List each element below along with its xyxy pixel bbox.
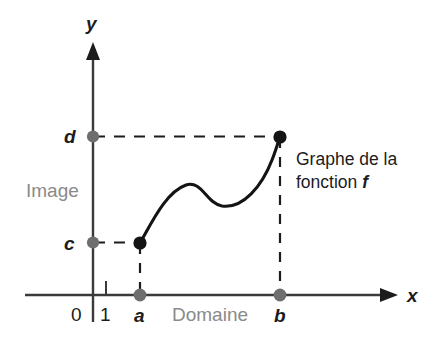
function-symbol: f bbox=[362, 172, 368, 192]
curve-endpoint-b-d bbox=[273, 130, 286, 143]
domain-label: Domaine bbox=[172, 305, 248, 324]
function-graph-figure: y x d c Image 0 1 a Domaine b Graphe de … bbox=[0, 0, 429, 338]
origin-label: 0 bbox=[71, 305, 82, 324]
x-high-label: b bbox=[274, 306, 286, 325]
graph-annotation-line2-prefix: fonction bbox=[296, 172, 357, 192]
point-b-on-x-axis bbox=[274, 289, 287, 302]
graph-annotation: Graphe de la fonction f bbox=[296, 148, 397, 195]
point-d-on-y-axis bbox=[87, 130, 99, 142]
curve-endpoint-a-c bbox=[133, 236, 146, 249]
y-high-label: d bbox=[64, 127, 76, 146]
x-axis-label: x bbox=[407, 286, 418, 305]
point-c-on-y-axis bbox=[87, 236, 99, 248]
y-low-label: c bbox=[64, 234, 75, 253]
graph-annotation-line1: Graphe de la bbox=[296, 148, 397, 171]
y-axis-label: y bbox=[86, 14, 97, 33]
point-a-on-x-axis bbox=[134, 289, 147, 302]
function-curve bbox=[140, 137, 280, 243]
graph-annotation-line2: fonction f bbox=[296, 171, 397, 194]
y-axis-arrowhead bbox=[86, 42, 100, 60]
x-axis-arrowhead bbox=[380, 288, 398, 302]
range-label: Image bbox=[26, 181, 79, 200]
unit-tick-label: 1 bbox=[100, 305, 111, 324]
x-low-label: a bbox=[134, 306, 145, 325]
